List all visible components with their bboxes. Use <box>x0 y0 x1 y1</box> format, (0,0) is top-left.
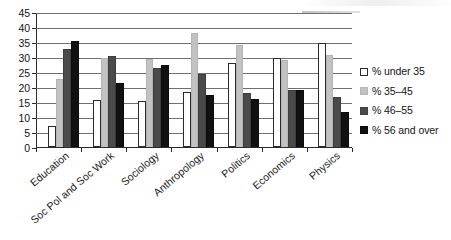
bar-group <box>217 13 262 147</box>
bar <box>273 58 281 147</box>
y-axis-tick <box>32 73 36 74</box>
bar-chart: 051015202530354045 EducationSoc Pol and … <box>0 0 451 240</box>
legend-item: % 46–55 <box>360 105 451 116</box>
y-axis-tick-label: 40 <box>19 23 30 34</box>
bar <box>138 101 146 148</box>
legend-item: % 56 and over <box>360 125 451 136</box>
y-axis-tick-label: 15 <box>19 98 30 109</box>
bar <box>318 43 326 147</box>
y-axis-tick <box>32 43 36 44</box>
bar <box>288 90 296 147</box>
white-square-swatch <box>360 68 368 76</box>
bar-group <box>172 13 217 147</box>
bar <box>116 83 124 147</box>
black-square-swatch <box>360 126 368 134</box>
bar-group <box>127 13 172 147</box>
bar <box>251 99 259 147</box>
bar <box>146 59 154 147</box>
legend-item-label: % 56 and over <box>372 125 438 136</box>
bar <box>206 95 214 147</box>
dark-gray-square-swatch <box>360 107 368 115</box>
bar-group <box>307 13 352 147</box>
y-axis-tick <box>32 28 36 29</box>
x-axis-category-label: Soc Pol and Soc Work <box>29 150 116 225</box>
x-axis-category-label: Economics <box>250 150 296 191</box>
legend-item-label: % 46–55 <box>372 105 413 116</box>
x-axis-category-labels: EducationSoc Pol and Soc WorkSociologyAn… <box>36 150 352 240</box>
bar <box>48 126 56 147</box>
bar-group <box>262 13 307 147</box>
legend-item-label: % 35–45 <box>372 86 413 97</box>
chart-legend: % under 35% 35–45% 46–55% 56 and over <box>360 66 451 144</box>
bar <box>326 55 334 147</box>
bar <box>281 60 289 147</box>
bar <box>228 63 236 147</box>
scan-artifact <box>300 0 451 6</box>
bar <box>153 68 161 147</box>
bar <box>296 90 304 147</box>
y-axis-tick-label: 35 <box>19 38 30 49</box>
x-axis-category-label: Physics <box>307 150 341 181</box>
light-gray-square-swatch <box>360 87 368 95</box>
x-axis-category-label: Politics <box>219 150 251 179</box>
bar-group <box>37 13 82 147</box>
bar <box>198 74 206 147</box>
bar <box>63 49 71 147</box>
bar-group <box>82 13 127 147</box>
x-axis-tick <box>352 148 353 152</box>
x-axis-line <box>36 147 352 148</box>
bar <box>93 100 101 147</box>
bar <box>183 92 191 148</box>
y-axis-tick-label: 0 <box>24 143 30 154</box>
bar <box>101 58 109 147</box>
y-axis-tick <box>32 103 36 104</box>
bar <box>108 56 116 147</box>
bar <box>243 93 251 147</box>
bar <box>236 45 244 147</box>
legend-item: % 35–45 <box>360 86 451 97</box>
bar <box>56 79 64 147</box>
bar <box>333 97 341 147</box>
y-axis-tick <box>32 58 36 59</box>
bar-groups <box>37 13 352 147</box>
y-axis-tick-label: 30 <box>19 53 30 64</box>
legend-item: % under 35 <box>360 66 451 77</box>
x-axis-category-label: Sociology <box>119 150 161 187</box>
y-axis-tick <box>32 133 36 134</box>
y-axis-tick-label: 20 <box>19 83 30 94</box>
y-axis-tick <box>32 88 36 89</box>
y-axis-tick <box>32 118 36 119</box>
bar <box>71 41 79 147</box>
y-axis-tick-label: 25 <box>19 68 30 79</box>
y-axis-tick-label: 45 <box>19 8 30 19</box>
bar <box>191 33 199 147</box>
legend-item-label: % under 35 <box>372 66 425 77</box>
x-axis-category-label: Education <box>28 150 71 188</box>
bar <box>161 65 169 147</box>
plot-area: 051015202530354045 <box>36 13 352 148</box>
y-axis-tick-label: 5 <box>24 128 30 139</box>
bar <box>341 112 349 147</box>
y-axis-tick-label: 10 <box>19 113 30 124</box>
y-axis-tick <box>32 13 36 14</box>
